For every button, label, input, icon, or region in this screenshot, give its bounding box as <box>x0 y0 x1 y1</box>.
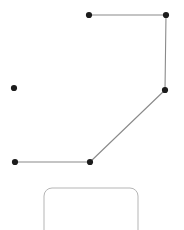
edge-layer <box>15 15 166 162</box>
node-top-right[interactable] <box>163 12 169 18</box>
edge-diagonal[interactable] <box>90 90 165 162</box>
canvas-root <box>0 0 184 230</box>
node-bottom-left[interactable] <box>12 159 18 165</box>
node-top-left[interactable] <box>86 12 92 18</box>
node-mid-right[interactable] <box>162 87 168 93</box>
node-layer <box>11 12 169 165</box>
node-isolated-left[interactable] <box>11 85 17 91</box>
vector-surface <box>0 0 184 230</box>
panel-layer <box>44 188 138 230</box>
rounded-panel[interactable] <box>44 188 138 230</box>
edge-right-vertical[interactable] <box>165 15 166 90</box>
node-bottom-corner[interactable] <box>87 159 93 165</box>
